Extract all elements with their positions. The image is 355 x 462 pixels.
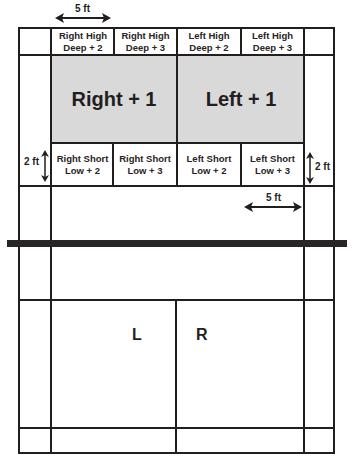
zone-line2: Low + 3	[119, 165, 171, 177]
zone-line2: Deep + 3	[252, 42, 293, 54]
zone-line2: Deep + 2	[188, 42, 229, 54]
receiver-left-label: L	[132, 326, 142, 344]
horizontal-double-arrow-icon	[244, 202, 302, 212]
zone-right-plus-1: Right + 1	[52, 55, 176, 143]
zone-line2: Low + 3	[250, 165, 295, 177]
zone-left-high-deep-2: Left HighDeep + 2	[178, 29, 240, 54]
zone-line1: Right Short	[119, 153, 171, 165]
zone-line1: Left High	[252, 30, 293, 42]
vertical-double-arrow-icon	[41, 150, 49, 182]
horizontal-double-arrow-icon	[55, 13, 111, 23]
top-divider-right	[113, 27, 115, 55]
gray-zone-bottom	[50, 142, 305, 144]
zone-right-short-low-3: Right ShortLow + 3	[114, 145, 176, 185]
short-divider-left	[240, 143, 242, 186]
zone-line2: Low + 2	[57, 165, 109, 177]
zone-line2: Low + 2	[187, 165, 232, 177]
zone-right-high-deep-3: Right HighDeep + 3	[115, 29, 176, 54]
zone-line1: Left Short	[187, 153, 232, 165]
top-long-service-line	[18, 54, 335, 56]
zone-left-high-deep-3: Left HighDeep + 3	[241, 29, 304, 54]
receiver-right-label: R	[196, 326, 208, 344]
zone-right-plus-1-label: Right + 1	[71, 88, 156, 111]
zone-left-plus-1-label: Left + 1	[206, 88, 277, 111]
zone-right-short-low-2: Right ShortLow + 2	[52, 145, 113, 185]
zone-right-high-deep-2: Right HighDeep + 2	[52, 29, 114, 54]
zone-line1: Left High	[188, 30, 229, 42]
zone-line2: Deep + 3	[121, 42, 169, 54]
zone-left-short-low-3: Left ShortLow + 3	[241, 145, 304, 185]
bottom-long-service-line	[18, 427, 335, 429]
short-divider-right	[112, 143, 114, 186]
zone-line1: Left Short	[250, 153, 295, 165]
bottom-center-line	[175, 299, 177, 454]
left-height-label: 2 ft	[24, 156, 39, 167]
zone-line1: Right High	[121, 30, 169, 42]
vertical-double-arrow-icon	[306, 152, 314, 184]
zone-line1: Right High	[59, 30, 107, 42]
zone-line1: Right Short	[57, 153, 109, 165]
net	[7, 240, 347, 247]
top-short-service-line	[18, 185, 335, 187]
right-height-label: 2 ft	[315, 161, 330, 172]
bottom-back-boundary	[18, 452, 335, 454]
zone-left-plus-1: Left + 1	[178, 55, 304, 143]
top-divider-left	[240, 27, 242, 55]
top-center-line	[176, 27, 178, 187]
top-back-boundary	[18, 27, 335, 29]
zone-line2: Deep + 2	[59, 42, 107, 54]
zone-left-short-low-2: Left ShortLow + 2	[178, 145, 240, 185]
